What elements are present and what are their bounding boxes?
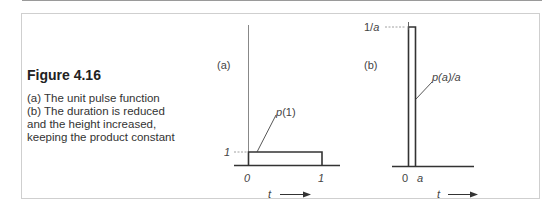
height-label: 1/a	[364, 21, 379, 33]
x-axis-label: t	[268, 188, 272, 200]
x-tick-a: a	[417, 172, 423, 184]
leader-line	[257, 115, 276, 152]
curve-label: p(a)/a	[431, 71, 461, 83]
x-axis-label: t	[437, 188, 441, 200]
figure-plots: (a) 1 p(1) 0 1 t (b) 1/a p(a)/a 0 a t	[0, 0, 557, 208]
x-tick-0: 0	[244, 172, 251, 184]
unit-pulse	[249, 152, 323, 166]
arrow-right-icon	[470, 192, 478, 198]
leader-line	[416, 82, 432, 99]
x-tick-1: 1	[318, 172, 324, 184]
narrow-pulse	[409, 27, 416, 167]
curve-label: p(1)	[275, 106, 296, 118]
panel-b: (b) 1/a p(a)/a 0 a t	[364, 21, 478, 200]
panel-b-label: (b)	[364, 59, 377, 71]
panel-a-label: (a)	[217, 59, 230, 71]
x-tick-0: 0	[402, 172, 408, 184]
height-label: 1	[224, 146, 230, 158]
panel-a: (a) 1 p(1) 0 1 t	[217, 25, 340, 200]
arrow-right-icon	[303, 192, 311, 198]
